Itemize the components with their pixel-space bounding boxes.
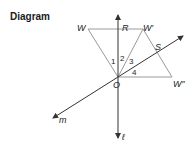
angle-1: 1 — [111, 57, 116, 66]
line-m-down — [53, 77, 118, 118]
angle-4: 4 — [132, 68, 137, 77]
segment-wprime-o — [118, 29, 143, 77]
angle-2: 2 — [120, 54, 125, 63]
label-o: O — [113, 80, 120, 90]
label-l: ℓ — [121, 132, 125, 142]
label-w-prime: W′ — [143, 23, 153, 33]
label-m: m — [59, 115, 67, 125]
label-w-double-prime: W″ — [173, 79, 185, 89]
label-w: W — [77, 23, 87, 33]
angle-3: 3 — [129, 57, 134, 66]
label-s: S — [155, 42, 161, 52]
segment-wprime-wdoubleprime — [143, 29, 172, 77]
segment-w-o — [88, 29, 118, 77]
label-r: R — [122, 23, 129, 33]
reflection-diagram: W R W′ S W″ O m ℓ 1 2 3 4 — [0, 0, 196, 143]
